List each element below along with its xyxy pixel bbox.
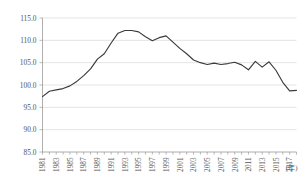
y-axis-labels: 85.090.095.0100.0105.0110.0115.0 bbox=[20, 14, 37, 157]
line-chart: 85.090.095.0100.0105.0110.0115.0 1981198… bbox=[0, 0, 308, 190]
x-tick-label: 2001 bbox=[177, 157, 185, 172]
x-tick-label: 2005 bbox=[204, 157, 212, 172]
y-tick-label: 110.0 bbox=[20, 36, 37, 45]
chart-canvas: 85.090.095.0100.0105.0110.0115.0 1981198… bbox=[0, 0, 308, 190]
x-tick-label: 2011 bbox=[245, 157, 253, 172]
x-tick-label: 1997 bbox=[149, 157, 157, 172]
y-tick-label: 95.0 bbox=[24, 103, 37, 112]
x-axis-unit-label: (年) bbox=[286, 163, 298, 172]
y-tick-label: 115.0 bbox=[20, 14, 37, 23]
x-axis-labels: 1981198319851987198919911993199519971999… bbox=[39, 157, 294, 172]
x-tick-label: 1987 bbox=[80, 157, 88, 172]
x-tick-label: 2003 bbox=[190, 157, 198, 172]
x-tick-label: 2013 bbox=[259, 157, 267, 172]
x-tick-label: 1991 bbox=[108, 157, 116, 172]
x-tick-label: 1985 bbox=[67, 157, 75, 172]
x-tick-label: 1983 bbox=[53, 157, 61, 172]
x-tick-label: 2009 bbox=[232, 157, 240, 172]
x-tick-label: 1981 bbox=[39, 157, 47, 172]
y-tick-label: 100.0 bbox=[20, 81, 37, 90]
gridlines bbox=[43, 18, 297, 130]
x-tick-label: 1999 bbox=[163, 157, 171, 172]
y-axis-ticks bbox=[40, 18, 43, 152]
y-tick-label: 105.0 bbox=[20, 58, 37, 67]
x-tick-label: 2015 bbox=[273, 157, 281, 172]
x-tick-label: 2007 bbox=[218, 157, 226, 172]
y-tick-label: 85.0 bbox=[24, 148, 37, 157]
x-tick-label: 1989 bbox=[94, 157, 102, 172]
y-tick-label: 90.0 bbox=[24, 125, 37, 134]
x-tick-label: 1993 bbox=[122, 157, 130, 172]
x-tick-label: 1995 bbox=[135, 157, 143, 172]
